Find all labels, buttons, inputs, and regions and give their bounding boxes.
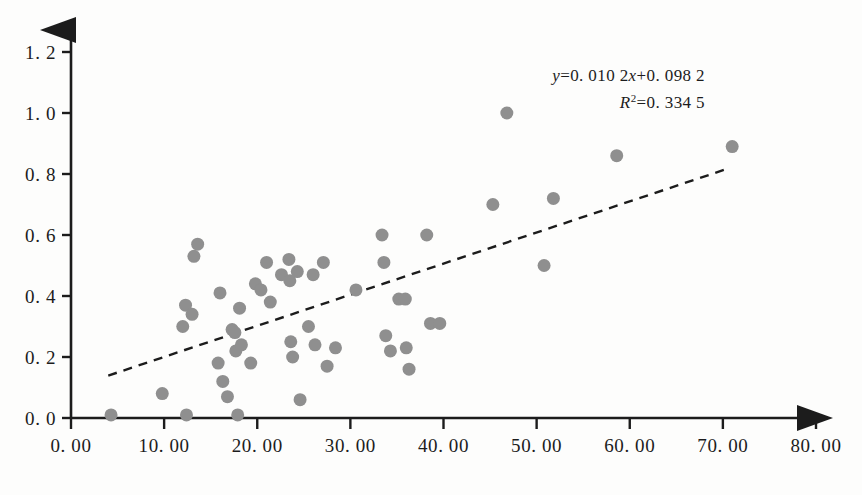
scatter-point: [376, 229, 389, 242]
x-tick-label: 10. 00: [139, 435, 190, 456]
scatter-point: [538, 259, 551, 272]
scatter-point: [403, 363, 416, 376]
scatter-point: [379, 329, 392, 342]
y-axis-ticks: [62, 52, 71, 418]
scatter-point: [486, 198, 499, 211]
scatter-point: [105, 408, 118, 421]
scatter-point: [282, 253, 295, 266]
scatter-point: [329, 341, 342, 354]
y-tick-label: 0. 8: [25, 164, 56, 185]
scatter-point: [308, 338, 321, 351]
scatter-point: [500, 107, 513, 120]
y-tick-label: 0. 4: [25, 286, 56, 307]
y-tick-label: 0. 2: [25, 347, 56, 368]
scatter-point: [214, 286, 227, 299]
scatter-point: [349, 283, 362, 296]
scatter-point: [235, 338, 248, 351]
y-tick-label: 0. 0: [25, 408, 56, 429]
x-tick-label: 70. 00: [697, 435, 748, 456]
scatter-point: [216, 375, 229, 388]
scatter-point: [221, 390, 234, 403]
scatter-point: [321, 360, 334, 373]
scatter-point: [384, 344, 397, 357]
y-tick-label: 1. 2: [25, 42, 56, 63]
y-tick-label: 1. 0: [25, 103, 56, 124]
scatter-point: [176, 320, 189, 333]
scatter-point: [264, 296, 277, 309]
scatter-point: [156, 387, 169, 400]
equation-x-symbol: x: [628, 66, 637, 85]
scatter-point: [420, 229, 433, 242]
x-tick-label: 20. 00: [232, 435, 283, 456]
scatter-point: [610, 149, 623, 162]
x-tick-label: 60. 00: [604, 435, 655, 456]
scatter-point: [399, 293, 412, 306]
equation-intercept-part: +0. 098 2: [637, 66, 705, 85]
regression-trendline: [108, 169, 725, 375]
scatter-point: [228, 326, 241, 339]
scatter-point: [377, 256, 390, 269]
scatter-point: [547, 192, 560, 205]
regression-equation-label: y=0. 010 2x+0. 098 2: [550, 66, 705, 85]
scatter-point: [284, 335, 297, 348]
scatter-points: [105, 107, 739, 422]
r-squared-symbol: R: [619, 93, 631, 112]
scatter-point: [291, 265, 304, 278]
scatter-point: [191, 238, 204, 251]
scatter-point: [244, 357, 257, 370]
x-tick-label: 0. 00: [51, 435, 92, 456]
scatter-point: [307, 268, 320, 281]
scatter-point: [286, 351, 299, 364]
scatter-point: [400, 341, 413, 354]
scatter-point: [231, 408, 244, 421]
scatter-point: [726, 140, 739, 153]
scatter-point: [317, 256, 330, 269]
x-tick-label: 40. 00: [418, 435, 469, 456]
scatter-point: [180, 408, 193, 421]
scatter-point: [260, 256, 273, 269]
scatter-point: [254, 283, 267, 296]
y-axis-tick-labels: 0. 00. 20. 40. 60. 81. 01. 2: [25, 42, 56, 429]
x-axis-tick-labels: 0. 0010. 0020. 0030. 0040. 0050. 0060. 0…: [51, 435, 842, 456]
scatter-point: [433, 317, 446, 330]
x-tick-label: 80. 00: [790, 435, 841, 456]
y-tick-label: 0. 6: [25, 225, 56, 246]
equation-y-symbol: y: [550, 66, 560, 85]
equation-slope-part: =0. 010 2: [560, 66, 628, 85]
plot-canvas: 0. 0010. 0020. 0030. 0040. 0050. 0060. 0…: [0, 0, 862, 495]
scatter-point: [233, 302, 246, 315]
scatter-point: [186, 308, 199, 321]
scatter-point: [212, 357, 225, 370]
x-tick-label: 30. 00: [325, 435, 376, 456]
r-squared-label: R2=0. 334 5: [619, 92, 705, 112]
scatter-point: [187, 250, 200, 263]
r-squared-value: =0. 334 5: [637, 93, 705, 112]
x-tick-label: 50. 00: [511, 435, 562, 456]
scatter-chart: 0. 0010. 0020. 0030. 0040. 0050. 0060. 0…: [0, 0, 862, 495]
scatter-point: [294, 393, 307, 406]
scatter-point: [302, 320, 315, 333]
